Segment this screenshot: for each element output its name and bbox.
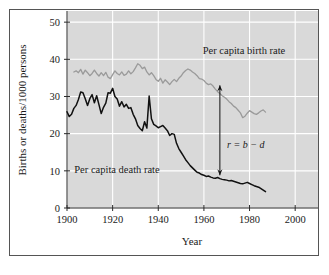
demographic-transition-chart: 01020304050 190019201940196019802000 Yea… bbox=[0, 0, 329, 275]
birth-rate-series-label: Per capita birth rate bbox=[203, 45, 286, 56]
x-tick-label: 1980 bbox=[239, 214, 260, 225]
death-rate-series-label: Per capita death rate bbox=[74, 164, 160, 175]
y-tick-label: 30 bbox=[50, 91, 61, 102]
x-tick-label: 1900 bbox=[57, 214, 78, 225]
x-tick-labels: 190019201940196019802000 bbox=[57, 214, 306, 225]
x-tick-label: 1940 bbox=[148, 214, 169, 225]
y-tick-label: 0 bbox=[55, 203, 60, 214]
y-tick-label: 50 bbox=[50, 17, 61, 28]
x-tick-label: 1920 bbox=[102, 214, 123, 225]
growth-rate-equation-label: r = b − d bbox=[227, 139, 265, 150]
figure-container: 01020304050 190019201940196019802000 Yea… bbox=[0, 0, 329, 275]
y-axis-title: Births or deaths/1000 persons bbox=[16, 44, 28, 175]
x-axis-title: Year bbox=[182, 235, 203, 247]
y-tick-label: 40 bbox=[50, 54, 61, 65]
y-tick-labels: 01020304050 bbox=[50, 17, 61, 214]
x-tick-label: 2000 bbox=[285, 214, 306, 225]
y-tick-label: 20 bbox=[50, 128, 61, 139]
y-tick-label: 10 bbox=[50, 166, 61, 177]
plot-background bbox=[67, 11, 318, 208]
x-tick-label: 1960 bbox=[193, 214, 214, 225]
